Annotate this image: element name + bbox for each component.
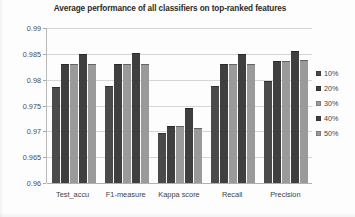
bar	[176, 126, 184, 183]
bar-chart: Average performance of all classifiers o…	[0, 0, 355, 217]
legend-swatch-icon	[316, 131, 321, 136]
bar	[114, 64, 122, 183]
bar	[61, 64, 69, 183]
bar	[123, 64, 131, 183]
legend-item[interactable]: 10%	[316, 66, 355, 81]
y-axis-tick-label: 0.97	[1, 127, 41, 136]
legend-item-label: 20%	[324, 84, 338, 93]
bar	[247, 64, 255, 183]
legend-item-label: 10%	[324, 69, 338, 78]
bar	[79, 54, 87, 183]
bar-top-edge	[185, 108, 193, 109]
x-axis-category-label: Kappa score	[152, 190, 205, 199]
bar	[211, 86, 219, 183]
x-axis-category-label: F1-measure	[99, 190, 152, 199]
bar-group	[52, 28, 96, 183]
bar	[167, 126, 175, 183]
legend-item[interactable]: 40%	[316, 111, 355, 126]
bar-top-edge	[167, 126, 175, 127]
bar	[194, 128, 202, 183]
chart-legend: 10%20%30%40%50%	[316, 66, 355, 141]
y-axis-tick-label: 0.985	[1, 50, 41, 59]
legend-swatch-icon	[316, 71, 321, 76]
y-axis-tick-label: 0.96	[1, 179, 41, 188]
bar	[238, 54, 246, 183]
x-axis-category-label: Recall	[206, 190, 259, 199]
bar	[229, 64, 237, 183]
bar-top-edge	[247, 64, 255, 65]
bar	[273, 61, 281, 183]
bar	[132, 53, 140, 183]
bar	[88, 64, 96, 183]
bar-top-edge	[79, 54, 87, 55]
legend-item[interactable]: 50%	[316, 126, 355, 141]
bar-top-edge	[132, 53, 140, 54]
legend-item-label: 40%	[324, 114, 338, 123]
x-axis-category-label: Precision	[259, 190, 312, 199]
bar-top-edge	[220, 64, 228, 65]
y-axis-tick-label: 0.965	[1, 153, 41, 162]
bar-top-edge	[282, 61, 290, 62]
bar-top-edge	[211, 86, 219, 87]
bar-top-edge	[88, 64, 96, 65]
bar-top-edge	[70, 64, 78, 65]
bar	[282, 61, 290, 183]
bar-top-edge	[141, 64, 149, 65]
y-axis-tick-label: 0.99	[1, 24, 41, 33]
plot-area	[46, 28, 312, 183]
y-axis-tick-label: 0.98	[1, 76, 41, 85]
bar-group	[105, 28, 149, 183]
legend-swatch-icon	[316, 86, 321, 91]
bar-top-edge	[194, 128, 202, 129]
legend-swatch-icon	[316, 116, 321, 121]
bar	[264, 81, 272, 183]
bar-top-edge	[300, 60, 308, 61]
scan-edge-shading-bottom	[0, 213, 355, 217]
bar-top-edge	[105, 86, 113, 87]
x-axis-category-label: Test_accu	[46, 190, 99, 199]
bar	[52, 87, 60, 183]
y-axis-tick-mark	[43, 183, 46, 184]
bar-top-edge	[264, 81, 272, 82]
bar	[291, 51, 299, 183]
legend-item[interactable]: 20%	[316, 81, 355, 96]
bar-top-edge	[123, 64, 131, 65]
legend-item-label: 30%	[324, 99, 338, 108]
bar	[185, 108, 193, 183]
bar-top-edge	[176, 126, 184, 127]
bar	[300, 60, 308, 183]
bar-top-edge	[238, 54, 246, 55]
bar-top-edge	[229, 64, 237, 65]
bar-group	[211, 28, 255, 183]
legend-swatch-icon	[316, 101, 321, 106]
chart-title: Average performance of all classifiers o…	[0, 4, 340, 13]
bar	[141, 64, 149, 183]
bar-group	[158, 28, 202, 183]
legend-item[interactable]: 30%	[316, 96, 355, 111]
gridline	[47, 183, 312, 184]
bar-top-edge	[114, 64, 122, 65]
legend-item-label: 50%	[324, 129, 338, 138]
bar	[70, 64, 78, 183]
bar-top-edge	[158, 133, 166, 134]
bar-group	[264, 28, 308, 183]
bar	[220, 64, 228, 183]
bar	[105, 86, 113, 183]
bar-top-edge	[61, 64, 69, 65]
bar-top-edge	[291, 51, 299, 52]
bar	[158, 133, 166, 183]
bar-top-edge	[273, 61, 281, 62]
y-axis-tick-label: 0.975	[1, 102, 41, 111]
bar-top-edge	[52, 87, 60, 88]
